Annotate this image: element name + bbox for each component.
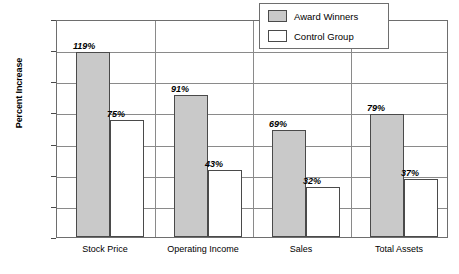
- bar-value-label: 119%: [73, 41, 95, 51]
- category-divider: [351, 21, 352, 237]
- x-axis-label-sales: Sales: [252, 244, 350, 254]
- y-axis-tick-mark: [51, 238, 56, 239]
- bar-control-group-total-assets: [404, 179, 438, 237]
- bar-award-winners-total-assets: [370, 114, 404, 237]
- bar-control-group-stock-price: [110, 120, 144, 237]
- plot-area: [56, 20, 448, 238]
- bar-value-label: 91%: [171, 84, 189, 94]
- bar-value-label: 75%: [107, 109, 125, 119]
- gridline: [57, 52, 447, 53]
- legend-label-control-group: Control Group: [294, 31, 354, 42]
- legend: Award Winners Control Group: [259, 3, 389, 49]
- bar-control-group-operating-income: [208, 170, 242, 237]
- bar-value-label: 43%: [205, 159, 223, 169]
- bar-award-winners-sales: [272, 130, 306, 237]
- bar-value-label: 37%: [401, 168, 419, 178]
- x-axis-label-stock-price: Stock Price: [56, 244, 154, 254]
- x-axis-label-total-assets: Total Assets: [350, 244, 448, 254]
- legend-item-award-winners: Award Winners: [268, 10, 358, 22]
- bar-award-winners-stock-price: [76, 52, 110, 237]
- bar-value-label: 79%: [367, 103, 385, 113]
- x-axis-label-operating-income: Operating Income: [154, 244, 252, 254]
- legend-label-award-winners: Award Winners: [294, 11, 358, 22]
- gridline: [57, 83, 447, 84]
- category-divider: [253, 21, 254, 237]
- y-axis-title: Percent Increase: [14, 38, 24, 148]
- bar-value-label: 69%: [269, 119, 287, 129]
- category-divider: [155, 21, 156, 237]
- legend-item-control-group: Control Group: [268, 30, 354, 42]
- bar-value-label: 32%: [303, 176, 321, 186]
- legend-swatch-award-winners: [268, 10, 287, 22]
- bar-award-winners-operating-income: [174, 95, 208, 237]
- bar-chart: Percent Increase 020406080100120140 119%…: [0, 0, 459, 274]
- bar-control-group-sales: [306, 187, 340, 237]
- legend-swatch-control-group: [268, 30, 287, 42]
